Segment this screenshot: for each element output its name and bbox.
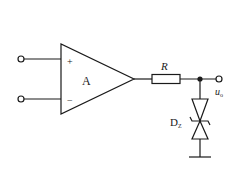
junction-dot — [197, 76, 202, 81]
opamp-label: A — [82, 74, 91, 88]
resistor-label: R — [160, 60, 168, 72]
opamp-minus-label: − — [67, 95, 73, 106]
zener-label: DZ — [170, 116, 182, 129]
zener-lower-diode — [192, 121, 208, 139]
terminal-input-plus[interactable] — [18, 56, 24, 62]
output-label: uo — [215, 86, 223, 98]
terminal-output[interactable] — [216, 76, 222, 82]
opamp-plus-label: + — [67, 56, 73, 67]
terminal-input-minus[interactable] — [18, 96, 24, 102]
circuit-diagram: + − A R uo DZ — [0, 0, 237, 169]
resistor-R — [152, 75, 180, 84]
zener-upper-diode — [192, 99, 208, 121]
